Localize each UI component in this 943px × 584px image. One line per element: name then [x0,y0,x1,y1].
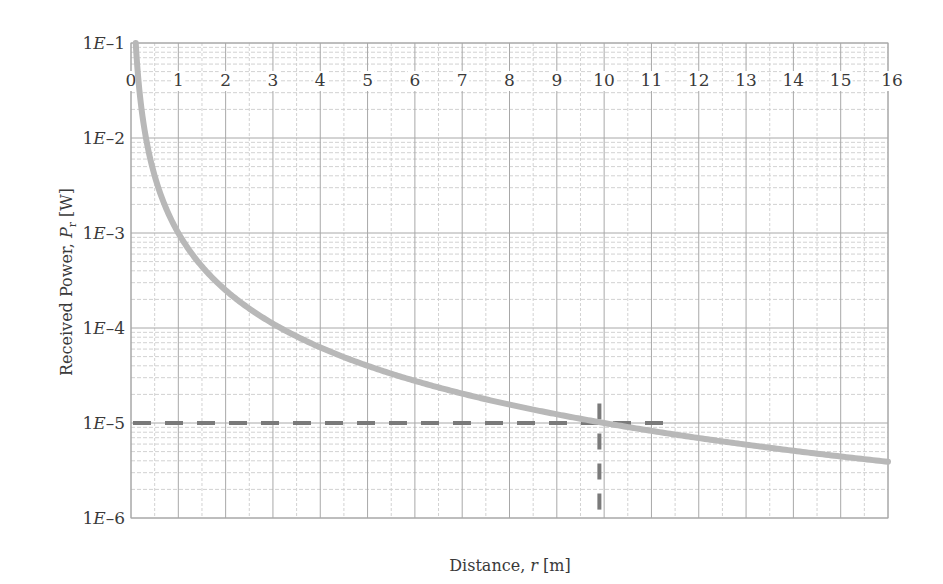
x-tick-label: 5 [362,70,373,90]
x-axis-label: Distance, r [m] [449,556,570,575]
x-tick-label: 7 [457,70,468,90]
y-tick-label: 1E–3 [82,223,125,243]
x-tick-label: 2 [220,70,231,90]
y-tick-label: 1E–2 [82,128,125,148]
x-tick-label: 9 [551,70,562,90]
x-tick-label: 10 [593,70,615,90]
y-tick-label: 1E–4 [82,318,125,338]
x-tick-label: 14 [783,70,805,90]
x-tick-label: 12 [688,70,710,90]
y-axis-label: Received Power, Pr [W] [57,188,79,376]
x-tick-label: 16 [881,70,903,90]
y-axis-tick-labels: 1E–11E–21E–31E–41E–51E–6 [82,33,125,528]
y-tick-label: 1E–5 [82,413,125,433]
x-tick-label: 1 [173,70,184,90]
x-tick-label: 0 [126,70,137,90]
x-tick-label: 11 [641,70,663,90]
x-tick-label: 15 [830,70,852,90]
x-tick-label: 13 [735,70,757,90]
x-tick-label: 3 [268,70,279,90]
x-tick-label: 6 [409,70,420,90]
x-tick-label: 4 [315,70,326,90]
received-power-chart: 012345678910111213141516 1E–11E–21E–31E–… [0,0,943,584]
received-power-curve [136,43,888,462]
y-tick-label: 1E–6 [82,508,125,528]
y-tick-label: 1E–1 [82,33,125,53]
x-tick-label: 8 [504,70,515,90]
